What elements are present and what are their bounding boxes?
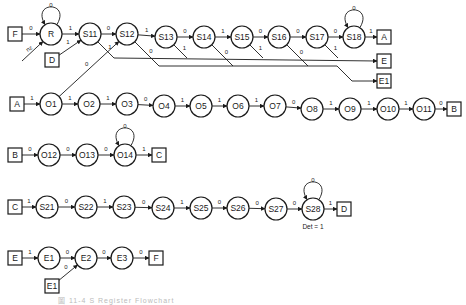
- edge-label-E_in-E1n: 1: [28, 249, 32, 255]
- edge-label-S25-S26: 0: [218, 199, 222, 205]
- edge-label-O9-O10: 1: [367, 100, 371, 106]
- edge-label-O5-O6: 1: [218, 97, 222, 103]
- bus-e-tap-S11: [98, 42, 114, 58]
- state-node-s28: S28: [302, 198, 324, 220]
- state-node-s15: S15: [231, 26, 253, 48]
- connector-box-b-out: B: [447, 102, 461, 116]
- state-label: S15: [234, 32, 249, 42]
- state-label: E1: [44, 253, 55, 263]
- bus-e1-tap-S14: [212, 45, 233, 66]
- state-label: S16: [271, 32, 286, 42]
- bus-e1-tap-S12: [135, 42, 159, 66]
- edge-label-S22-S23: 1: [103, 198, 107, 204]
- self-loop-O14: [116, 128, 134, 146]
- annotation-det: Det = 1: [302, 223, 324, 230]
- state-label: S24: [155, 203, 170, 213]
- state-node-o8: O8: [301, 98, 323, 120]
- state-node-o4: O4: [153, 95, 175, 117]
- edge-label-S15-S16: 0: [259, 28, 263, 34]
- connector-box-e1-out: E1: [377, 74, 391, 88]
- edge-label-S26-S27: 0: [255, 200, 259, 206]
- bus-e-tap-label-S13: 1: [183, 45, 187, 51]
- connector-label: C: [12, 202, 18, 212]
- state-label: O1: [45, 99, 57, 109]
- edge-label-S16-S17: 0: [296, 28, 300, 34]
- state-node-s12: S12: [116, 23, 138, 45]
- state-label: O13: [79, 150, 95, 160]
- edge-label-E2-E3: 0: [102, 249, 106, 255]
- state-node-o14: O14: [114, 144, 136, 166]
- edge-label-O13-O14: 0: [104, 146, 108, 152]
- state-label: S14: [196, 32, 211, 42]
- state-label: O7: [269, 101, 281, 111]
- connector-label: E: [381, 56, 387, 66]
- state-label: S17: [309, 32, 324, 42]
- state-node-s27: S27: [265, 198, 287, 220]
- connector-box-b-in: B: [8, 148, 22, 162]
- bus-e-tap-label-S17: 1: [334, 45, 338, 51]
- edge-label-S11-S12: 0: [107, 25, 111, 31]
- state-label: S28: [305, 204, 320, 214]
- edge-label-S17-S18: 0: [334, 28, 338, 34]
- state-node-o13: O13: [76, 144, 98, 166]
- state-label: O6: [232, 101, 244, 111]
- state-node-o1: O1: [40, 93, 62, 115]
- bus-e1-line: [159, 66, 377, 81]
- state-label: S18: [346, 32, 361, 42]
- connector-label: F: [12, 29, 17, 39]
- state-label: S23: [116, 202, 131, 212]
- connector-box-c-in: C: [8, 200, 22, 214]
- connector-box-f-in: F: [8, 27, 22, 41]
- state-node-s22: S22: [75, 196, 97, 218]
- edge-label-O11-B_out: 0: [439, 100, 443, 106]
- state-node-o9: O9: [339, 98, 361, 120]
- edge-label-S14-S15: 1: [221, 28, 225, 34]
- transition-arrow-S12-S13: [138, 35, 155, 36]
- edge-label-O10-O11: 1: [404, 100, 408, 106]
- connector-label: E1: [379, 76, 390, 86]
- state-label: O2: [83, 99, 95, 109]
- connector-label: B: [451, 104, 457, 114]
- state-node-e1n: E1: [38, 247, 60, 269]
- edge-label-A_in-O1: 1: [30, 95, 34, 101]
- state-label: S25: [193, 203, 208, 213]
- state-label: R: [48, 29, 54, 39]
- edge-label-O8-O9: 1: [329, 100, 333, 106]
- state-node-o2: O2: [78, 93, 100, 115]
- connector-label: D: [49, 55, 55, 65]
- edge-label-O3-O4: 0: [144, 96, 148, 102]
- connector-box-e-out: E: [377, 54, 391, 68]
- state-node-s16: S16: [268, 26, 290, 48]
- edge-label-F_in-R: 0: [29, 25, 33, 31]
- reset-input-arrow: [22, 41, 43, 61]
- edge-label-S13-S14: 0: [183, 28, 187, 34]
- state-label: O9: [344, 104, 356, 114]
- self-loop-S18: [345, 10, 363, 28]
- state-label: S11: [83, 29, 98, 39]
- connector-label: A: [14, 99, 20, 109]
- connector-box-e1-in: E1: [45, 279, 59, 293]
- figure-caption: 圖 11-4 S Register Flowchart: [58, 295, 174, 305]
- edge-label-O2-O3: 1: [106, 95, 110, 101]
- connector-box-d-in: D: [45, 53, 59, 67]
- state-node-s23: S23: [113, 196, 135, 218]
- state-node-o6: O6: [227, 95, 249, 117]
- self-loop-S28: [304, 182, 322, 200]
- edge-label-C_in-S21: 1: [27, 198, 31, 204]
- transition-arrow-D_in-S11: [59, 40, 81, 55]
- state-label: O11: [416, 104, 432, 114]
- state-node-s13: S13: [155, 26, 177, 48]
- connector-label: F: [153, 253, 158, 263]
- edge-label-S28-D_out: 1: [329, 200, 333, 206]
- edge-label-O12-O13: 0: [66, 146, 70, 152]
- connector-label: D: [341, 204, 347, 214]
- connector-box-f-out: F: [149, 251, 163, 265]
- state-label: E3: [117, 253, 128, 263]
- state-label: O10: [380, 104, 396, 114]
- edge-label-R-S11: 1: [69, 25, 73, 31]
- state-node-s14: S14: [193, 26, 215, 48]
- state-node-s24: S24: [152, 197, 174, 219]
- state-node-s26: S26: [227, 197, 249, 219]
- state-label: O8: [306, 104, 318, 114]
- self-loop-R: [42, 7, 60, 25]
